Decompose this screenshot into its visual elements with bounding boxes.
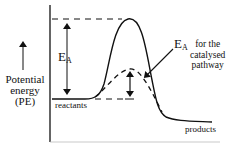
- catalysed-curve: [95, 69, 162, 112]
- products-label: products: [185, 125, 216, 134]
- catalysed-description-line: for the: [190, 39, 225, 50]
- y-axis-label-line: (PE): [2, 96, 48, 107]
- catalysed-pointer-arrow-icon: [146, 49, 173, 76]
- catalysed-description: for the catalysed pathway: [190, 39, 225, 71]
- ea-subscript: A: [66, 56, 72, 65]
- y-axis-label: Potential energy (PE): [2, 74, 48, 107]
- ea-symbol: E: [58, 49, 66, 64]
- catalysed-activation-energy-label: EA: [174, 37, 188, 52]
- activation-energy-label: EA: [58, 50, 72, 65]
- catalysed-description-line: pathway: [190, 60, 225, 71]
- reactants-label: reactants: [55, 101, 87, 110]
- catalysed-description-line: catalysed: [190, 50, 225, 61]
- ea-symbol: E: [174, 36, 182, 51]
- ea-subscript: A: [182, 43, 188, 52]
